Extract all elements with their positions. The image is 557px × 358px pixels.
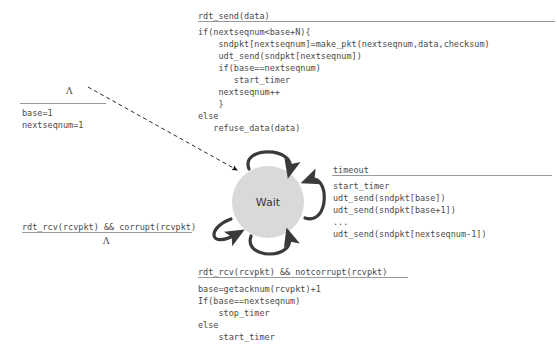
init-rule [20, 103, 106, 104]
transition-rule-rdt-rcv-notcorrupt [198, 277, 408, 278]
self-loop-arrow-right [305, 179, 324, 219]
transition-rule-timeout [332, 175, 552, 176]
init-condition-lambda: Λ [66, 86, 73, 96]
init-action: base=1 nextseqnum=1 [22, 107, 83, 131]
self-loop-arrow-bottom [250, 236, 289, 254]
transition-action-rdt-rcv-notcorrupt: base=getacknum(rcvpkt)+1 If(base==nextse… [198, 283, 321, 343]
transition-rule-rdt-rcv-corrupt [22, 232, 192, 233]
transition-action-timeout: start_timer udt_send(sndpkt[base]) udt_s… [333, 180, 487, 240]
transition-rule-rdt-send [198, 21, 555, 22]
fsm-diagram-canvas: rdt_send(data) if(nextseqnum<base+N){ sn… [0, 0, 557, 358]
transition-action-rdt-rcv-corrupt: Λ [103, 236, 110, 246]
state-wait: Wait [232, 166, 304, 238]
state-wait-label: Wait [256, 196, 280, 209]
self-loop-arrow-left [214, 219, 237, 240]
transition-action-rdt-send: if(nextseqnum<base+N){ sndpkt[nextseqnum… [198, 26, 490, 134]
